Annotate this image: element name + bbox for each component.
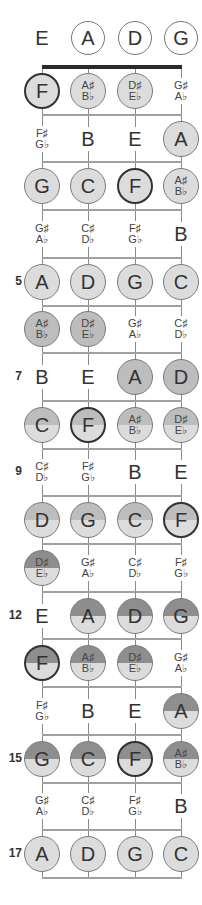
note-name-flat: A♭ xyxy=(82,568,94,579)
note-name: E xyxy=(128,701,141,721)
note-label: C♯D♭ xyxy=(24,459,60,485)
note-label: B xyxy=(163,222,199,246)
note-name-flat: G♭ xyxy=(128,806,142,817)
note-marker: D xyxy=(117,598,153,634)
note-marker: F xyxy=(117,168,153,204)
note-name: F xyxy=(36,653,48,673)
fret-line xyxy=(42,257,182,259)
note-marker: A xyxy=(24,836,60,872)
note-name-flat: G♭ xyxy=(128,234,142,245)
note-label: E xyxy=(163,460,199,484)
note-name: D xyxy=(35,510,49,530)
note-label: G♯A♭ xyxy=(24,221,60,247)
fret-number-5: 5 xyxy=(6,274,22,288)
note-label: F♯G♭ xyxy=(117,793,153,819)
note-name: C xyxy=(81,749,95,769)
note-marker: G xyxy=(24,168,60,204)
note-label: G♯A♭ xyxy=(163,650,199,676)
note-name: C xyxy=(128,510,142,530)
note-name: E xyxy=(174,462,187,482)
note-label: E xyxy=(24,604,60,628)
note-label: G♯A♭ xyxy=(70,555,106,581)
note-label: B xyxy=(163,794,199,818)
note-name-flat: A♭ xyxy=(36,234,48,245)
note-marker: G xyxy=(70,502,106,538)
note-marker: A♯B♭ xyxy=(24,311,60,347)
note-name: F xyxy=(82,415,94,435)
nut xyxy=(42,65,182,69)
note-name: A xyxy=(81,606,94,626)
note-name-flat: B♭ xyxy=(82,91,94,102)
note-label: C♯D♭ xyxy=(70,793,106,819)
open-string-E: E xyxy=(25,21,59,55)
note-name-flat: A♭ xyxy=(175,663,187,674)
note-name-flat: E♭ xyxy=(129,91,141,102)
fret-number-9: 9 xyxy=(6,464,22,478)
note-name: B xyxy=(174,224,187,244)
note-name: G xyxy=(34,749,50,769)
note-label: F♯G♭ xyxy=(24,126,60,152)
note-name-flat: D♭ xyxy=(82,806,95,817)
note-marker: G xyxy=(24,741,60,777)
note-marker: D xyxy=(24,502,60,538)
note-name: C xyxy=(174,272,188,292)
note-name: B xyxy=(81,701,94,721)
note-marker: C xyxy=(70,741,106,777)
note-marker: F xyxy=(70,407,106,443)
note-name: A xyxy=(35,844,48,864)
note-name-flat: G♭ xyxy=(35,139,49,150)
note-marker: A xyxy=(163,121,199,157)
note-marker: C xyxy=(24,407,60,443)
note-name-flat: D♭ xyxy=(36,472,49,483)
note-name-flat: E♭ xyxy=(82,329,94,340)
note-label: F♯G♭ xyxy=(70,459,106,485)
note-name: G xyxy=(34,176,50,196)
note-name: A♯ xyxy=(175,748,188,759)
note-name-flat: B♭ xyxy=(82,663,94,674)
note-name: A xyxy=(35,272,48,292)
note-name: F♯ xyxy=(36,128,48,139)
fret-line xyxy=(42,161,182,163)
note-name-flat: A♭ xyxy=(129,329,141,340)
note-marker: C xyxy=(163,836,199,872)
note-marker: D xyxy=(163,359,199,395)
fret-line xyxy=(42,495,182,497)
note-label: B xyxy=(24,365,60,389)
fret-line xyxy=(42,734,182,736)
note-name-flat: E♭ xyxy=(175,425,187,436)
note-marker: D♯E♭ xyxy=(70,311,106,347)
note-label: C♯D♭ xyxy=(163,316,199,342)
note-marker: D♯E♭ xyxy=(117,645,153,681)
fret-line xyxy=(42,305,182,307)
note-marker: D♯E♭ xyxy=(163,407,199,443)
note-marker: A xyxy=(117,359,153,395)
note-marker: D♯E♭ xyxy=(24,550,60,586)
note-name: B xyxy=(81,129,94,149)
fret-line xyxy=(42,638,182,640)
fret-line xyxy=(42,829,182,831)
note-marker: G xyxy=(163,598,199,634)
note-label: C♯D♭ xyxy=(117,555,153,581)
note-label: G♯A♭ xyxy=(24,793,60,819)
note-name-flat: G♭ xyxy=(81,472,95,483)
fretboard-diagram: EADGFA♯B♭D♯E♭G♯A♭F♯G♭BEAGCFA♯B♭G♯A♭C♯D♭F… xyxy=(0,0,202,905)
note-name: C xyxy=(174,844,188,864)
note-name-flat: E♭ xyxy=(129,663,141,674)
note-label: F♯G♭ xyxy=(24,698,60,724)
note-name: F xyxy=(129,749,141,769)
fret-number-7: 7 xyxy=(6,369,22,383)
fret-line xyxy=(42,782,182,784)
fret-line xyxy=(42,686,182,688)
note-name-flat: B♭ xyxy=(129,425,141,436)
note-marker: A xyxy=(70,598,106,634)
note-name: G xyxy=(173,606,189,626)
note-label: F♯G♭ xyxy=(117,221,153,247)
note-label: B xyxy=(70,127,106,151)
fret-line xyxy=(42,114,182,116)
note-name-flat: E♭ xyxy=(36,568,48,579)
note-label: E xyxy=(117,699,153,723)
note-label: E xyxy=(117,127,153,151)
note-marker: A♯B♭ xyxy=(70,645,106,681)
note-label: G♯A♭ xyxy=(163,78,199,104)
note-name: A xyxy=(174,129,187,149)
